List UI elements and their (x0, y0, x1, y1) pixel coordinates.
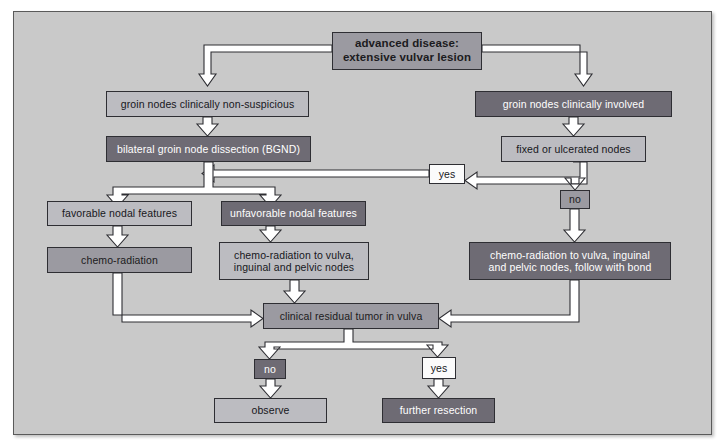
node-groin-nodes-nonsuspicious[interactable]: groin nodes clinically non-suspicious (106, 91, 309, 117)
connector-residual-split (259, 329, 448, 359)
connector-unfavorable-to-chemonodes (260, 226, 281, 242)
node-observe[interactable]: observe (214, 398, 327, 423)
flowchart-panel: advanced disease:extensive vulvar lesion… (13, 11, 712, 435)
connector-no-to-observe (260, 379, 281, 398)
node-bgnd-label: bilateral groin node dissection (BGND) (113, 143, 304, 155)
node-chemo-radiation-follow-with-bond-label: chemo-radiation to vulva, inguinaland pe… (485, 249, 656, 274)
node-unfavorable-nodal-features-label: unfavorable nodal features (226, 207, 361, 219)
connector-yes-to-bgnd (202, 165, 429, 182)
node-groin-nodes-involved-label: groin nodes clinically involved (499, 98, 648, 110)
node-fixed-or-ulcerated-nodes-label: fixed or ulcerated nodes (512, 143, 634, 155)
node-advanced-disease-label: advanced disease:extensive vulvar lesion (339, 37, 475, 64)
node-unfavorable-nodal-features[interactable]: unfavorable nodal features (221, 201, 366, 226)
node-no-right-label: no (565, 193, 585, 205)
node-chemo-radiation-label: chemo-radiation (77, 254, 162, 266)
node-chemo-radiation[interactable]: chemo-radiation (47, 247, 192, 273)
node-clinical-residual-tumor-label: clinical residual tumor in vulva (276, 310, 427, 322)
flowchart-page: advanced disease:extensive vulvar lesion… (0, 0, 725, 446)
node-chemo-radiation-vulva-nodes[interactable]: chemo-radiation to vulva,inguinal and pe… (219, 242, 369, 280)
connector-involved-to-fixed (563, 117, 584, 136)
node-yes-upper-label: yes (435, 168, 460, 180)
connector-fixed-to-yes (465, 162, 587, 189)
node-yes-bottom-label: yes (427, 362, 452, 374)
connector-nonsuspicious-to-bgnd (197, 117, 218, 136)
connector-chemonodes-to-residual (284, 280, 305, 303)
node-no-right[interactable]: no (560, 190, 590, 209)
node-further-resection-label: further resection (396, 404, 482, 416)
connector-favorable-to-chemorad (107, 226, 128, 247)
node-fixed-or-ulcerated-nodes[interactable]: fixed or ulcerated nodes (501, 136, 646, 162)
node-yes-upper[interactable]: yes (429, 164, 465, 184)
node-favorable-nodal-features-label: favorable nodal features (58, 207, 181, 219)
node-advanced-disease[interactable]: advanced disease:extensive vulvar lesion (332, 32, 482, 70)
connector-chemobond-to-residual (439, 280, 579, 327)
node-favorable-nodal-features[interactable]: favorable nodal features (47, 201, 192, 226)
node-no-bottom-label: no (260, 363, 280, 375)
connector-advanced-to-involved (482, 45, 592, 86)
connector-advanced-to-nonsuspicious (199, 45, 332, 86)
node-groin-nodes-involved[interactable]: groin nodes clinically involved (475, 91, 672, 117)
connector-chemorad-to-residual (113, 273, 263, 327)
node-clinical-residual-tumor[interactable]: clinical residual tumor in vulva (263, 303, 439, 329)
node-chemo-radiation-follow-with-bond[interactable]: chemo-radiation to vulva, inguinaland pe… (469, 242, 671, 280)
connector-no-to-chemobond (564, 209, 585, 242)
node-no-bottom[interactable]: no (254, 359, 286, 379)
node-observe-label: observe (247, 404, 293, 416)
connector-yes-to-resection (428, 379, 449, 398)
node-chemo-radiation-vulva-nodes-label: chemo-radiation to vulva,inguinal and pe… (230, 249, 358, 274)
node-bgnd[interactable]: bilateral groin node dissection (BGND) (106, 136, 311, 162)
node-groin-nodes-nonsuspicious-label: groin nodes clinically non-suspicious (117, 98, 299, 110)
node-yes-bottom[interactable]: yes (422, 357, 456, 379)
node-further-resection[interactable]: further resection (382, 398, 495, 423)
